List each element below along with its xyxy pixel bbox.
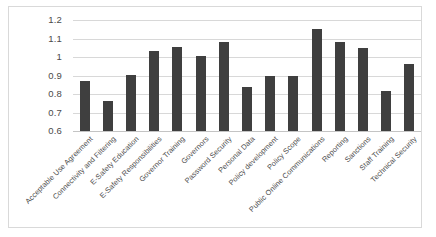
bar-chart: 0.60.70.80.911.11.2 Acceptable Use Agree… <box>0 0 436 237</box>
bar <box>358 48 368 131</box>
bar <box>242 87 252 131</box>
y-axis-tick-label: 0.7 <box>48 108 62 118</box>
bar <box>196 56 206 131</box>
bar <box>103 101 113 131</box>
y-axis-tick-label: 0.8 <box>48 89 62 99</box>
bar <box>126 75 136 131</box>
x-axis-tick-label: Technical Security <box>370 135 419 184</box>
bar <box>404 64 414 131</box>
y-axis-tick-label: 0.9 <box>48 71 62 81</box>
bar <box>172 47 182 131</box>
y-axis-tick-label: 1.1 <box>48 34 62 44</box>
bar <box>265 76 275 131</box>
y-axis-tick-labels: 0.60.70.80.911.11.2 <box>8 20 68 131</box>
bar <box>80 81 90 131</box>
x-axis-category-labels: Acceptable Use AgreementConnectivity and… <box>73 131 421 231</box>
bar <box>312 29 322 131</box>
y-axis-tick-label: 1 <box>57 52 62 62</box>
y-axis-tick-label: 1.2 <box>48 15 62 25</box>
bar <box>335 42 345 131</box>
bar <box>149 51 159 131</box>
bar <box>219 42 229 131</box>
bar-series <box>73 20 421 131</box>
plot-area <box>73 20 421 131</box>
bar <box>288 76 298 132</box>
y-axis-tick-label: 0.6 <box>48 126 62 136</box>
bar <box>381 91 391 131</box>
